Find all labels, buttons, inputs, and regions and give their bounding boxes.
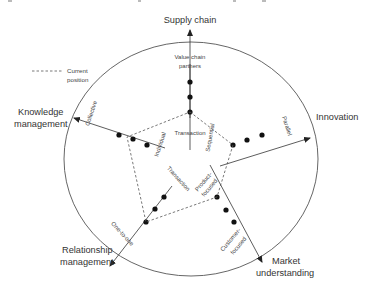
axis-dot <box>187 94 192 99</box>
legend: Current position <box>32 67 89 83</box>
inner-label-one-to-one: One-to-one <box>110 220 135 247</box>
inner-label-partners: partners <box>179 63 201 69</box>
legend-label-line1: Current <box>67 67 88 74</box>
outer-label-market: Market <box>272 256 301 266</box>
inner-label-value-chain: Value chain <box>175 54 206 60</box>
axis-dot <box>223 207 228 212</box>
outer-label-knowledge: Knowledge <box>18 107 63 117</box>
center-label-sequential: Sequential <box>205 123 216 152</box>
axis-dot <box>244 137 249 142</box>
center-label-individual: Individual <box>153 131 167 157</box>
outer-label-understanding: understanding <box>256 268 314 278</box>
center-label-transaction-top: Transaction <box>174 130 205 136</box>
axis-dot <box>187 79 192 84</box>
outer-label-management-know: management <box>14 119 68 129</box>
diagram-canvas: Current position Supply chain Value chai… <box>0 0 370 292</box>
axis-dot <box>259 132 264 137</box>
inner-label-collective: Collective <box>84 99 98 126</box>
current-position-polygon <box>127 112 233 222</box>
outer-label-management-rel: management <box>60 257 114 267</box>
inner-label-parallel: Parallel <box>281 115 293 136</box>
axis-innovation: Innovation Parallel Sequential <box>205 112 359 166</box>
axis-dot <box>152 206 157 211</box>
legend-label-line2: position <box>67 76 89 83</box>
axis-dot <box>231 219 236 224</box>
outer-label-innovation: Innovation <box>316 112 358 122</box>
outer-label-supply-chain: Supply chain <box>164 15 217 25</box>
center-label-transaction-lower: Transaction <box>166 165 191 192</box>
axis-knowledge-management: Knowledge management Collective Individu… <box>14 99 167 157</box>
outer-label-relationship: Relationship <box>62 245 113 255</box>
boundary-circle <box>64 42 318 276</box>
axis-dot <box>130 136 135 141</box>
axis-dot <box>116 132 121 137</box>
axis-dot <box>161 194 166 199</box>
axis-dot <box>144 142 149 147</box>
caption-fragment <box>8 0 266 2</box>
